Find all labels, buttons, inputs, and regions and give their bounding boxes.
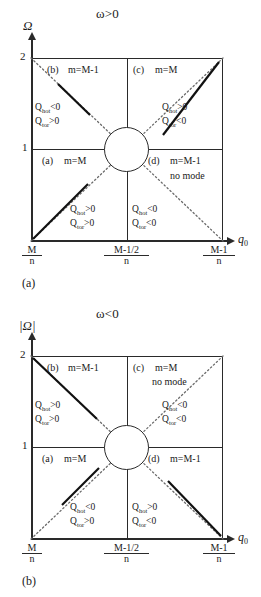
panel-b-quadrant-a-qtor: Qtor>0 [70,517,94,529]
panel-a-quadrant-d-mode: m=M-1 [170,155,201,166]
panel-b-quadrant-c-mode: m=M [155,362,177,373]
panel-a-quadrant-a-label: (a) [42,155,53,166]
panel-a-quadrant-c-qhot: Qhot>0 [162,103,187,115]
panel-a-tag: (a) [22,276,35,291]
panel-b-quadrant-a-qhot-rel: <0 [85,502,95,512]
panel-a-quadrant-d-qhot: Qhot<0 [132,205,157,217]
panel-a-quadrant-c-qtor-rel: <0 [176,116,186,126]
panel-b-quadrant-a-qtor-rel: >0 [84,516,94,526]
panel-a-quadrant-a-qhot-rel: >0 [85,204,95,214]
panel-a-solid-segment-upper-left [58,84,90,115]
panel-b-quadrant-d-mode: m=M-1 [170,453,201,464]
panel-a-quadrant-a-qhot-sub: hot [77,209,85,216]
panel-a-quadrant-b-qhot-sub: hot [42,107,50,114]
panel-b-quadrant-b-qhot-rel: >0 [50,400,60,410]
panel-a-quadrant-d-nomode: no mode [170,170,205,181]
panel-a-quadrant-c-qtor: Qtor<0 [162,117,186,129]
panel-b-quadrant-b-qtor-sym: Q [35,414,42,424]
panel-b-quadrant-a-qhot: Qhot<0 [70,503,95,515]
panel-b-quadrant-b-qtor-rel: >0 [49,414,59,424]
panel-a-quadrant-b-label: (b) [47,64,59,75]
panel-b-quadrant-d-qhot-sub: hot [139,507,147,514]
panel-b-quadrant-d-qhot-sym: Q [132,502,139,512]
panel-a-quadrant-b-qhot: Qhot<0 [35,103,60,115]
panel-b-quadrant-d-qtor-sym: Q [132,516,139,526]
panel-a-quadrant-d-qhot-rel: <0 [147,204,157,214]
panel-a-quadrant-b-qtor: Qtor>0 [35,117,59,129]
panel-a-quadrant-a-qtor: Qtor>0 [70,219,94,231]
panel-a-quadrant-a-qhot: Qhot>0 [70,205,95,217]
panel-a-quadrant-a-mode: m=M [64,155,86,166]
panel-a-center-circle [104,127,149,172]
panel-b-quadrant-c-qtor-rel: <0 [176,414,186,424]
panel-b-quadrant-c-qtor: Qtor<0 [162,415,186,427]
panel-b-quadrant-c-qhot-sub: hot [169,405,177,412]
panel-b-quadrant-d-qhot: Qhot>0 [132,503,157,515]
panel-omega-negative: ω<0 |Ω| q0 2 1 M n M-1/2 n M-1 n (b) m=M… [0,298,261,596]
panel-a-quadrant-d-qtor-sym: Q [132,218,139,228]
panel-b-quadrant-d-label: (d) [148,453,160,464]
panel-b-quadrant-d-qtor: Qtor<0 [132,517,156,529]
panel-b-quadrant-a-qtor-sym: Q [70,516,77,526]
panel-b-quadrant-d-qhot-rel: >0 [147,502,157,512]
panel-a-quadrant-a-qtor-rel: >0 [84,218,94,228]
panel-b-quadrant-b-qhot-sub: hot [42,405,50,412]
panel-b-quadrant-c-qhot: Qhot<0 [162,401,187,413]
panel-a-quadrant-c-qtor-sym: Q [162,116,169,126]
panel-b-quadrant-b-label: (b) [47,362,59,373]
panel-b-quadrant-b-qtor: Qtor>0 [35,415,59,427]
panel-a-quadrant-b-qtor-rel: >0 [49,116,59,126]
panel-a-quadrant-c-qhot-sub: hot [169,107,177,114]
panel-b-quadrant-c-qtor-sym: Q [162,414,169,424]
panel-a-quadrant-b-mode: m=M-1 [68,64,99,75]
panel-b-quadrant-c-qhot-sym: Q [162,400,169,410]
panel-b-quadrant-a-mode: m=M [64,453,86,464]
panel-b-quadrant-b-mode: m=M-1 [68,362,99,373]
panel-b-quadrant-d-qtor-rel: <0 [146,516,156,526]
panel-a-quadrant-a-qhot-sym: Q [70,204,77,214]
panel-b-quadrant-a-label: (a) [42,453,53,464]
panel-a-quadrant-d-label: (d) [148,155,160,166]
panel-b-solid-segment-lower-right [168,481,221,536]
panel-a-quadrant-c-qhot-sym: Q [162,102,169,112]
panel-a-quadrant-d-qhot-sub: hot [139,209,147,216]
panel-a-quadrant-c-label: (c) [133,64,144,75]
panel-a-quadrant-d-qtor: Qtor<0 [132,219,156,231]
panel-a-quadrant-c-mode: m=M [155,64,177,75]
panel-a-quadrant-b-qhot-sym: Q [35,102,42,112]
panel-a-quadrant-a-qtor-sym: Q [70,218,77,228]
panel-b-quadrant-b-qhot-sym: Q [35,400,42,410]
panel-b-quadrant-a-qhot-sym: Q [70,502,77,512]
panel-b-tag: (b) [22,574,36,589]
panel-a-quadrant-d-qhot-sym: Q [132,204,139,214]
panel-a-quadrant-c-qhot-rel: >0 [177,102,187,112]
panel-b-quadrant-b-qhot: Qhot>0 [35,401,60,413]
panel-b-quadrant-c-nomode: no mode [152,376,187,387]
panel-b-quadrant-c-label: (c) [133,362,144,373]
panel-b-quadrant-c-qhot-rel: <0 [177,400,187,410]
panel-a-quadrant-b-qhot-rel: <0 [50,102,60,112]
panel-a-quadrant-d-qtor-rel: <0 [146,218,156,228]
panel-omega-positive: ω>0 Ω q0 2 1 M n M-1/2 n M-1 n (b) m=M-1… [0,0,261,298]
panel-b-solid-segment-lower-left [62,468,99,505]
panel-b-quadrant-a-qhot-sub: hot [77,507,85,514]
panel-b-center-circle [104,425,149,470]
panel-a-quadrant-b-qtor-sym: Q [35,116,42,126]
